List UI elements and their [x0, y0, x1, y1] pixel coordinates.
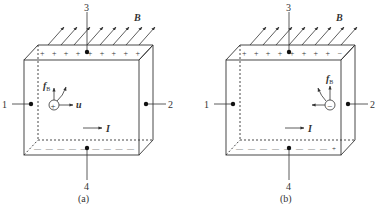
current-label-i: I	[105, 123, 111, 134]
electrode-4-dot	[287, 146, 291, 150]
velocity-label-u: u	[76, 99, 82, 110]
electrode-3-dot	[287, 50, 291, 54]
deflection-path-arrow	[57, 87, 66, 101]
magnetic-field-arrows	[250, 27, 357, 45]
electrode-1-dot	[231, 102, 235, 106]
field-label-b: B	[335, 12, 343, 23]
force-label: fB	[326, 73, 333, 85]
electrode-2-dot	[346, 102, 350, 106]
top-surface-charges: + + + + + + + + −	[242, 49, 342, 58]
electrode-2-label: 2	[168, 99, 173, 110]
panel-a: B + + + + + + + + + — — — — — — — — — 3 …	[2, 2, 173, 204]
electrode-2-dot	[144, 102, 148, 106]
svg-text:+: +	[51, 101, 56, 111]
electrode-4-label: 4	[84, 181, 89, 192]
force-label: fB	[43, 80, 50, 92]
field-label-b: B	[133, 12, 141, 23]
bottom-surface-charges: — — — — — — — — +	[235, 145, 336, 153]
electrode-1-dot	[29, 102, 33, 106]
magnetic-field-arrows	[48, 27, 155, 45]
electrode-3-dot	[85, 50, 89, 54]
caption-b: (b)	[280, 193, 292, 204]
conductor-slab	[24, 45, 153, 155]
hall-effect-diagram: B + + + + + + + + + — — — — — — — — — 3 …	[0, 0, 380, 204]
electrode-4-dot	[85, 146, 89, 150]
negative-carrier: − fB	[312, 73, 335, 111]
current-label-i: I	[307, 123, 313, 134]
deflection-path-arrow	[318, 88, 326, 101]
svg-text:−: −	[327, 101, 332, 111]
bottom-surface-charges: — — — — — — — — —	[33, 145, 135, 153]
electrode-4-label: 4	[286, 181, 291, 192]
caption-a: (a)	[78, 193, 89, 204]
top-surface-charges: + + + + + + + + +	[40, 49, 140, 58]
electrode-1-label: 1	[204, 99, 209, 110]
electrode-3-label: 3	[84, 2, 89, 13]
electrode-2-label: 2	[370, 99, 375, 110]
panel-b: B + + + + + + + + − — — — — — — — — + 3 …	[204, 2, 375, 204]
positive-carrier: + u fB	[43, 80, 82, 111]
electrode-3-label: 3	[286, 2, 291, 13]
conductor-slab	[226, 45, 355, 155]
electrode-1-label: 1	[2, 99, 7, 110]
